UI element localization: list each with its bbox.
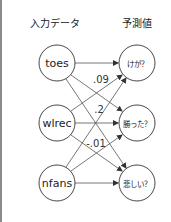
output-label-win: 勝った？ <box>123 118 151 129</box>
network-diagram <box>0 0 171 222</box>
weight-label-1: .09 <box>93 74 109 85</box>
weight-label-3: -.01 <box>86 138 106 149</box>
output-label-sad: 悲しい？ <box>123 178 151 189</box>
output-label-injury: けが？ <box>127 58 148 69</box>
input-label-wlrec: wlrec <box>42 117 71 130</box>
input-label-toes: toes <box>45 57 69 70</box>
weight-label-2: .2 <box>94 104 104 115</box>
input-label-nfans: nfans <box>42 177 72 190</box>
